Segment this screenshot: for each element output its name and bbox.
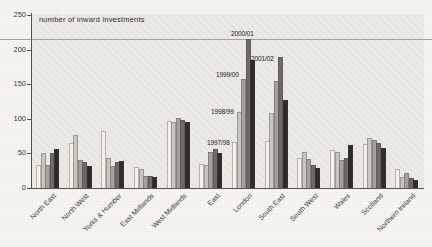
- bar-london-2001-02: [250, 60, 255, 188]
- x-category-label: West Midlands: [151, 192, 188, 229]
- x-category-label: Scotland: [360, 192, 384, 216]
- series-label-1997-98: 1997/98: [207, 139, 230, 146]
- y-tick-label: 250: [4, 11, 26, 19]
- y-tick-mark: [27, 188, 31, 189]
- y-tick-label: 100: [4, 115, 26, 123]
- x-category-label: London: [232, 192, 253, 213]
- y-tick-mark: [27, 50, 31, 51]
- series-label-2000-01: 2000/01: [231, 30, 254, 37]
- y-tick-mark: [27, 84, 31, 85]
- bar-yorks-humber-2001-02: [119, 161, 124, 188]
- y-tick-mark: [27, 153, 31, 154]
- y-tick-mark: [27, 119, 31, 120]
- x-category-label: Wales: [333, 192, 352, 211]
- x-category-label: East: [206, 192, 221, 207]
- series-label-2001-02: 2001/02: [251, 55, 274, 62]
- chart-title: number of inward investments: [39, 15, 145, 24]
- y-axis: [31, 13, 32, 188]
- y-tick-label: 200: [4, 46, 26, 54]
- bar-north-east-2001-02: [54, 149, 59, 188]
- y-tick-label: 0: [4, 184, 26, 192]
- inward-investments-bar-chart: number of inward investments 05010015020…: [0, 0, 432, 247]
- bar-northern-ireland-2001-02: [413, 180, 418, 188]
- bar-east-midlands-2001-02: [152, 177, 157, 188]
- series-label-1998-99: 1998/99: [211, 108, 234, 115]
- y-tick-label: 150: [4, 80, 26, 88]
- x-category-label: South West: [288, 192, 318, 222]
- page-horizontal-rule: [0, 39, 432, 40]
- x-category-label: South East: [257, 192, 286, 221]
- bar-south-east-2001-02: [283, 100, 288, 188]
- bar-north-west-2001-02: [87, 166, 92, 188]
- bar-south-west-2001-02: [315, 168, 320, 188]
- x-category-label: East Midlands: [119, 192, 155, 228]
- bar-scotland-2001-02: [381, 148, 386, 188]
- x-category-label: North West: [60, 192, 90, 222]
- bar-west-midlands-2001-02: [185, 122, 190, 188]
- y-tick-mark: [27, 15, 31, 16]
- y-tick-label: 50: [4, 149, 26, 157]
- x-category-label: North East: [29, 192, 57, 220]
- bar-east-2001-02: [217, 153, 222, 188]
- bar-wales-2001-02: [348, 145, 353, 188]
- series-label-1999-00: 1999/00: [216, 71, 239, 78]
- x-axis: [31, 188, 424, 189]
